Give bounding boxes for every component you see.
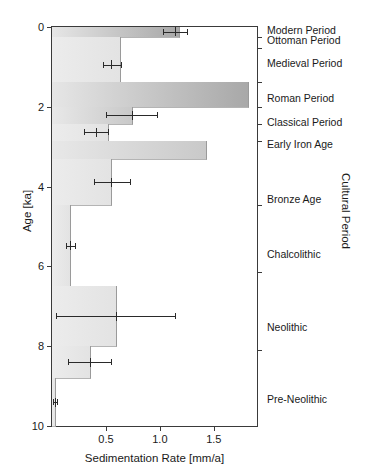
y2-axis-title: Cultural Period [340,151,352,271]
error-bar-cap [94,179,95,185]
cultural-period-label: Medieval Period [267,57,342,69]
y2-tick [257,82,262,83]
y-tick [47,27,52,28]
error-bar-cap [57,399,58,405]
error-bar-cap [108,129,109,135]
cultural-period-label: Bronze Age [267,193,321,205]
x-tick [214,426,215,431]
error-bar-cap [66,243,67,249]
plot-area: 0246810 0.51.01.5 Modern PeriodOttoman P… [51,26,258,427]
error-bar-cap [53,399,54,405]
y-tick-label: 6 [38,260,44,272]
y2-tick [257,205,262,206]
y-tick [47,346,52,347]
x-tick-label: 1.0 [152,433,167,445]
cultural-period-label: Chalcolithic [267,248,321,260]
x-tick-label: 0.5 [98,433,113,445]
cultural-period-label: Ottoman Period [267,34,341,46]
error-bar-center-tick [96,128,97,137]
error-bar-center-tick [111,60,112,69]
error-bar-cap [103,62,104,68]
y2-tick [257,107,262,108]
bar [52,82,249,108]
error-bar-center-tick [90,358,91,367]
y-tick-label: 10 [32,420,44,432]
x-tick [106,426,107,431]
y-tick [47,107,52,108]
y-tick-label: 8 [38,340,44,352]
cultural-period-label: Pre-Neolithic [267,393,327,405]
y-axis-title: Age [ka] [21,151,33,271]
error-bar-cap [75,243,76,249]
error-bar-cap [84,129,85,135]
y2-tick [257,272,262,273]
error-bar-center-tick [111,178,112,187]
bar [52,141,207,160]
error-bar-cap [111,359,112,365]
x-tick-label: 1.5 [206,433,221,445]
x-axis-title: Sedimentation Rate [mm/a] [51,452,258,464]
error-bar-cap [56,313,57,319]
error-bar-center-tick [116,312,117,321]
y2-tick [257,124,262,125]
y-tick [47,266,52,267]
y-tick [47,187,52,188]
y2-tick [257,350,262,351]
cultural-period-label: Neolithic [267,321,307,333]
error-bar-center-tick [70,241,71,250]
error-bar-center-tick [132,111,133,120]
bar-series [52,27,257,426]
error-bar-center-tick [175,27,176,36]
error-bar-cap [121,62,122,68]
y-tick [47,426,52,427]
error-bar-cap [163,29,164,35]
error-bar-cap [157,112,158,118]
error-bar-cap [130,179,131,185]
figure: 0246810 0.51.01.5 Modern PeriodOttoman P… [0,0,366,472]
cultural-period-label: Roman Period [267,92,334,104]
x-tick [160,426,161,431]
error-bar-cap [106,112,107,118]
cultural-period-label: Classical Period [267,116,342,128]
y-tick-label: 2 [38,101,44,113]
error-bar-cap [175,313,176,319]
cultural-period-label: Early Iron Age [267,138,333,150]
y2-tick [257,37,262,38]
error-bar-cap [68,359,69,365]
error-bar-center-tick [55,398,56,407]
y2-tick [257,48,262,49]
y2-tick [257,141,262,142]
y-tick-label: 0 [38,21,44,33]
error-bar-cap [187,29,188,35]
y-tick-label: 4 [38,181,44,193]
